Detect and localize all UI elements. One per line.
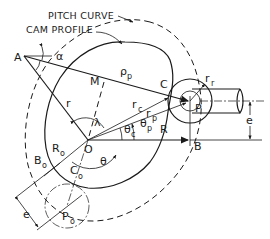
rp-sub: p	[152, 114, 157, 123]
pitch-curve-label: PITCH CURVE	[48, 10, 114, 21]
point-O-label: O	[84, 143, 93, 156]
rp-label: r	[146, 107, 151, 120]
R-label: R	[160, 123, 168, 136]
point-P-label: P	[195, 102, 202, 115]
point-C-label: C	[160, 78, 168, 91]
line-O-A	[24, 56, 88, 140]
a-angle-arc	[36, 61, 40, 70]
point-B0-sub: o	[42, 161, 47, 170]
e-left-label: e	[23, 208, 30, 221]
e-offset-line1	[15, 163, 60, 198]
rho-p-sub: p	[127, 72, 132, 81]
r-label: r	[66, 97, 71, 110]
alpha-arc	[42, 47, 43, 60]
line-M-O-dashed	[88, 82, 104, 140]
theta-c-sub: c	[131, 130, 135, 139]
cam-profile-label: CAM PROFILE	[26, 24, 93, 35]
point-B-label: B	[194, 140, 202, 153]
lambda-label: λ	[94, 116, 101, 129]
rr-radius	[190, 84, 205, 101]
theta-p-label: θ	[140, 117, 147, 130]
point-A-label: A	[14, 51, 22, 64]
point-P0-label: P	[62, 210, 69, 223]
rc-sub: c	[138, 105, 142, 114]
theta-p-sub: p	[147, 124, 152, 133]
line-O-P-rp	[88, 103, 186, 140]
point-P0-sub: o	[70, 217, 75, 226]
theta-arc	[72, 155, 116, 169]
R0-sub: o	[60, 149, 65, 158]
rc-label: r	[132, 98, 137, 111]
rho-p-label: ρ	[120, 65, 127, 78]
R0-label: R	[52, 142, 60, 155]
point-B0-label: B	[34, 154, 42, 167]
point-C0-label: C	[70, 164, 78, 177]
theta-c-arc	[120, 128, 122, 140]
pitch-curve	[25, 20, 201, 221]
pitch-curve-leader	[118, 16, 133, 22]
point-C0-sub: o	[78, 172, 83, 181]
e-offset-line2	[37, 195, 82, 230]
point-M-label: M	[90, 75, 100, 88]
rr-sub: r	[211, 79, 215, 88]
rr-label: r	[205, 72, 210, 85]
e-right-label: e	[246, 114, 253, 127]
cam-follower-diagram: PITCH CURVE CAM PROFILE A M C P O B B o …	[0, 0, 270, 239]
theta-c-label: θ	[124, 123, 131, 136]
theta-label: θ	[100, 155, 107, 168]
alpha-label: α	[56, 50, 63, 63]
